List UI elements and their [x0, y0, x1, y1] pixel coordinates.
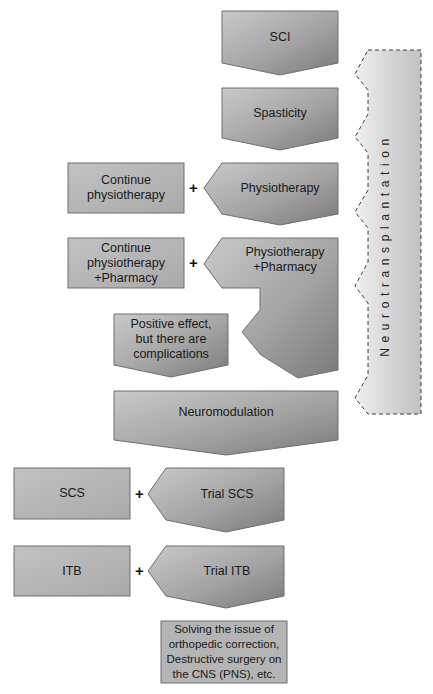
scs-label: SCS — [14, 468, 130, 519]
itb-label: ITB — [14, 546, 130, 596]
solving-label: Solving the issue of orthopedic correcti… — [161, 621, 287, 683]
spasticity-label: Spasticity — [222, 88, 338, 138]
neurotransplantation-label-wrap: Neurotransplantation — [355, 75, 415, 415]
plus-connector: + — [189, 254, 198, 271]
plus-connector: + — [189, 179, 198, 196]
physiotherapy-label: Physiotherapy — [222, 163, 338, 213]
sci-label: SCI — [222, 11, 338, 63]
physiotherapy-pharmacy-label: Physiotherapy +Pharmacy — [232, 240, 338, 280]
trial-scs-label: Trial SCS — [170, 468, 284, 520]
neurotransplantation-label: Neurotransplantation — [378, 133, 392, 356]
neuromodulation-label: Neuromodulation — [114, 400, 338, 424]
continue-physiotherapy-pharmacy-label: Continue physiotherapy +Pharmacy — [68, 238, 184, 288]
positive-effect-label: Positive effect, but there are complicat… — [114, 314, 228, 365]
plus-connector: + — [135, 485, 144, 502]
plus-connector: + — [135, 562, 144, 579]
continue-physiotherapy-label: Continue physiotherapy — [68, 163, 184, 213]
trial-itb-label: Trial ITB — [170, 546, 284, 596]
